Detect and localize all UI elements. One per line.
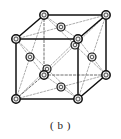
corner-front-bottom-left-core (14, 97, 18, 101)
corner-front-top-right-core (76, 37, 80, 41)
corner-back-bottom-right-core (104, 73, 108, 77)
face-center-bottom-core (59, 85, 63, 89)
face-center-bottom-atom (57, 83, 65, 91)
corner-back-top-left-core (42, 13, 46, 17)
corner-back-top-left-atom (40, 11, 48, 19)
figure-caption: ( b ) (0, 112, 121, 139)
corner-front-bottom-right-atom (74, 95, 82, 103)
corner-front-top-left-core (14, 37, 18, 41)
face-center-back-core (73, 43, 77, 47)
fcc-lattice-diagram (0, 0, 121, 112)
face-center-left-core (28, 55, 32, 59)
face-center-right-core (90, 55, 94, 59)
face-center-right-atom (88, 53, 96, 61)
face-center-top-core (59, 25, 63, 29)
face-center-front-core (45, 67, 49, 71)
corner-front-top-right-atom (74, 35, 82, 43)
corner-back-bottom-left-core (42, 73, 46, 77)
corner-front-bottom-right-core (76, 97, 80, 101)
face-center-top-atom (57, 23, 65, 31)
corner-front-bottom-left-atom (12, 95, 20, 103)
corner-back-bottom-right-atom (102, 71, 110, 79)
corner-back-bottom-left-atom (40, 71, 48, 79)
face-center-left-atom (26, 53, 34, 61)
corner-back-top-right-atom (102, 11, 110, 19)
corner-front-top-left-atom (12, 35, 20, 43)
figure-container: ( b ) (0, 0, 121, 139)
corner-back-top-right-core (104, 13, 108, 17)
